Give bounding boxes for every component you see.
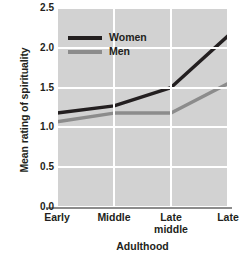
x-tick-label-line: Late [160,211,182,223]
x-axis-title: Adulthood [57,240,228,252]
x-tick-label-line: Middle [97,211,130,223]
gridline-horizontal [57,166,228,168]
legend-swatch [68,36,102,40]
chart-legend: WomenMen [68,31,158,59]
x-tick-label: Late [191,211,252,223]
gridline-horizontal [57,87,228,89]
x-axis-line [46,207,232,209]
legend-label: Women [109,31,147,44]
gridline-vertical [227,8,229,207]
y-tick-label: 1.0 [28,121,54,132]
y-tick-label: 2.0 [28,42,54,53]
x-tick-label-line: middle [134,223,208,235]
x-tick-label-line: Early [44,211,70,223]
y-tick-label: 1.5 [28,82,54,93]
legend-swatch [68,50,102,54]
gridline-horizontal [57,7,228,9]
legend-item: Men [68,45,158,58]
legend-item: Women [68,31,158,44]
y-tick-label: 0.5 [28,161,54,172]
gridline-horizontal [57,126,228,128]
series-line-men [57,84,228,122]
chart-figure: Mean rating of spirituality 0.00.51.01.5… [0,0,252,269]
gridline-vertical [170,8,172,207]
legend-label: Men [109,45,130,58]
x-tick-label-line: Late [217,211,239,223]
gridline-vertical [56,8,58,207]
y-tick-label: 2.5 [28,2,54,13]
